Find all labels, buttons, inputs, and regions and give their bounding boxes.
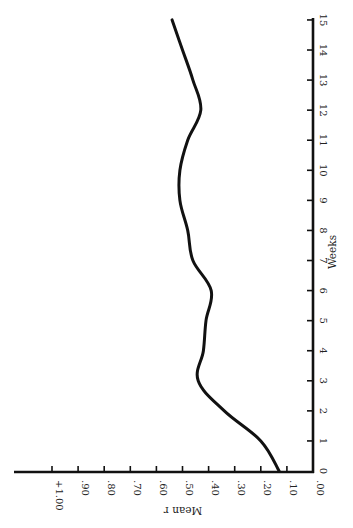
weeks-tick-label: 2 bbox=[318, 408, 329, 414]
mean-r-axis-title: Mean r bbox=[163, 505, 202, 517]
weeks-tick-label: 9 bbox=[318, 197, 329, 203]
mean-r-tick-label: .90 bbox=[80, 480, 91, 496]
weeks-tick-label: 6 bbox=[318, 287, 329, 293]
weeks-tick-label: 12 bbox=[318, 104, 329, 117]
axes bbox=[14, 18, 314, 473]
mean-r-tick-label: .00 bbox=[315, 480, 326, 496]
weeks-tick-label: 13 bbox=[318, 74, 329, 87]
weeks-tick-label: 14 bbox=[318, 44, 329, 57]
weeks-tick-label: 11 bbox=[318, 134, 329, 147]
weeks-tick-label: 0 bbox=[318, 468, 329, 474]
mean-r-tick-label: .10 bbox=[288, 480, 299, 496]
weeks-axis-title: Weeks bbox=[326, 235, 338, 269]
mean-r-tick-label: .30 bbox=[236, 480, 247, 496]
mean-r-curve bbox=[172, 20, 279, 471]
mean-r-tick-label: .50 bbox=[184, 480, 195, 496]
mean-r-tick-label: .70 bbox=[132, 480, 143, 496]
mean-r-tick-label: .20 bbox=[262, 480, 273, 496]
mean-r-tick-label: .60 bbox=[158, 480, 169, 496]
line-chart: .00.10.20.30.40.50.60.70.80.90+1.00 0123… bbox=[0, 0, 353, 528]
weeks-tick-label: 3 bbox=[318, 378, 329, 384]
weeks-tick-label: 15 bbox=[318, 14, 329, 27]
weeks-tick-label: 5 bbox=[318, 317, 329, 323]
weeks-tick-label: 8 bbox=[318, 227, 329, 233]
mean-r-tick-label: .80 bbox=[106, 480, 117, 496]
mean-r-tick-label: .40 bbox=[210, 480, 221, 496]
weeks-tick-label: 1 bbox=[318, 438, 329, 444]
mean-r-tick-label: +1.00 bbox=[54, 480, 65, 511]
weeks-tick-label: 4 bbox=[318, 348, 329, 354]
weeks-tick-label: 10 bbox=[318, 164, 329, 177]
